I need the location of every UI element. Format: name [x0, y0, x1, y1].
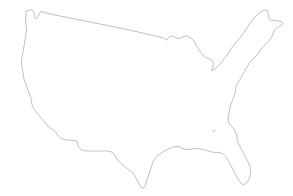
artifact-speck — [212, 131, 213, 132]
artifact-speck — [214, 130, 216, 132]
us-outline-map-svg — [0, 0, 293, 196]
map-figure: Blank outline map of the contiguous Unit… — [0, 0, 293, 196]
